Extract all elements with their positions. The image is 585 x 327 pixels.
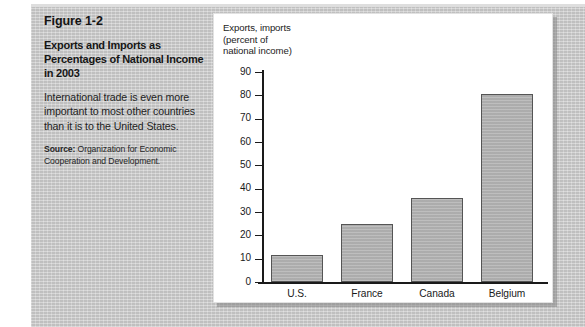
y-axis-tick: 90 xyxy=(255,72,262,73)
plot-area xyxy=(262,72,542,282)
figure-container: Figure 1-2 Exports and Imports as Percen… xyxy=(0,0,585,327)
y-axis-tick-label: 0 xyxy=(245,276,251,287)
x-axis-label: Belgium xyxy=(472,288,542,299)
x-axis-line xyxy=(258,282,548,284)
y-axis-tick-label: 10 xyxy=(240,252,251,263)
x-axis-label: France xyxy=(332,288,402,299)
bar-u-s xyxy=(271,255,323,282)
y-axis-tick-label: 70 xyxy=(240,112,251,123)
y-axis-caption: Exports, imports (percent of national in… xyxy=(223,22,292,57)
figure-description: International trade is even more importa… xyxy=(44,90,204,134)
figure-caption-column: Figure 1-2 Exports and Imports as Percen… xyxy=(44,14,204,167)
figure-title: Exports and Imports as Percentages of Na… xyxy=(44,38,204,81)
y-axis-tick-label: 90 xyxy=(240,66,251,77)
y-axis-tick: 60 xyxy=(255,142,262,143)
bar-france xyxy=(341,224,393,282)
figure-panel-top-highlight xyxy=(31,4,585,7)
y-axis-tick-label: 40 xyxy=(240,182,251,193)
y-axis-tick: 70 xyxy=(255,119,262,120)
bar-canada xyxy=(411,198,463,282)
bar-belgium xyxy=(481,94,533,282)
x-axis-label: U.S. xyxy=(262,288,332,299)
y-axis-tick-label: 80 xyxy=(240,89,251,100)
y-axis-tick-label: 60 xyxy=(240,136,251,147)
y-axis-tick-label: 30 xyxy=(240,206,251,217)
y-axis-tick: 0 xyxy=(255,282,262,283)
chart-panel: Exports, imports (percent of national in… xyxy=(213,13,553,303)
y-axis-tick-label: 20 xyxy=(240,229,251,240)
y-axis-tick-label: 50 xyxy=(240,159,251,170)
figure-number: Figure 1-2 xyxy=(44,14,204,29)
figure-source-label: Source: xyxy=(44,144,75,154)
x-axis-label: Canada xyxy=(402,288,472,299)
y-axis-tick: 50 xyxy=(255,165,262,166)
y-axis-tick: 10 xyxy=(255,259,262,260)
y-axis-tick: 30 xyxy=(255,212,262,213)
y-axis-tick: 80 xyxy=(255,95,262,96)
y-axis-tick: 20 xyxy=(255,235,262,236)
y-axis-tick: 40 xyxy=(255,189,262,190)
figure-source: Source: Organization for Economic Cooper… xyxy=(44,144,204,167)
